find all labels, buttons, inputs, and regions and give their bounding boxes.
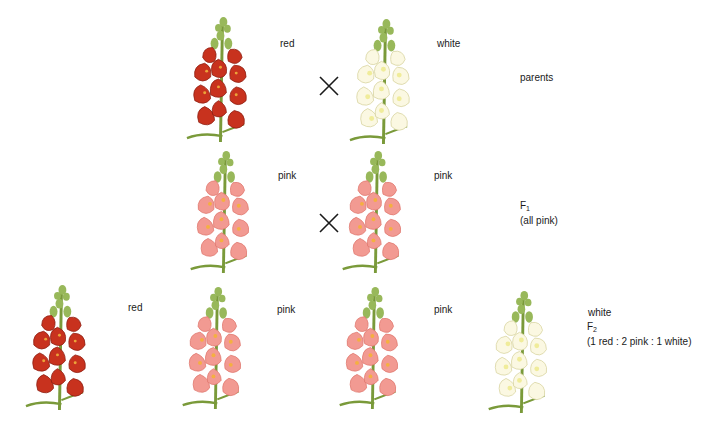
generation-subscript: 1	[526, 205, 530, 212]
f2-white-label: white	[588, 307, 611, 319]
generation-note: (all pink)	[520, 215, 558, 226]
f2-pink-plant-2	[327, 286, 412, 415]
snapdragon-pink-icon	[327, 286, 412, 411]
generation-label-parents: parents	[520, 72, 553, 84]
snapdragon-red-icon	[14, 284, 99, 412]
f1-pink-plant-1	[178, 150, 263, 279]
f1-pink-label-1: pink	[278, 170, 296, 182]
f1-pink-plant-2	[330, 150, 415, 279]
f2-white-plant	[476, 290, 561, 419]
parent-red-label: red	[280, 38, 294, 50]
snapdragon-pink-icon	[170, 286, 255, 411]
snapdragon-pink-icon	[330, 150, 415, 275]
generation-subscript: 2	[593, 326, 597, 333]
parent-white-label: white	[437, 38, 460, 50]
f2-pink-label-2: pink	[434, 304, 452, 316]
generation-label-f2: F2 (1 red : 2 pink : 1 white)	[587, 321, 692, 348]
parent-red-plant	[175, 16, 260, 148]
f2-red-label: red	[128, 302, 142, 314]
parent-white-plant	[338, 18, 423, 150]
snapdragon-white-icon	[338, 18, 423, 146]
snapdragon-pink-icon	[178, 150, 263, 275]
cross-symbol-icon	[318, 75, 340, 97]
f2-red-plant	[14, 284, 99, 416]
f1-pink-label-2: pink	[434, 170, 452, 182]
f2-pink-label-1: pink	[277, 304, 295, 316]
snapdragon-white-icon	[476, 290, 561, 415]
f2-pink-plant-1	[170, 286, 255, 415]
generation-label-f1: F1 (all pink)	[520, 200, 558, 227]
snapdragon-red-icon	[175, 16, 260, 144]
generation-note: (1 red : 2 pink : 1 white)	[587, 336, 692, 347]
